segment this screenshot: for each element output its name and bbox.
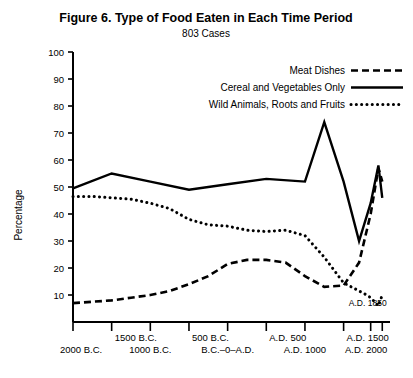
y-tick-label: 80 [53, 101, 64, 112]
y-axis-title: Percentage [13, 189, 24, 241]
food-type-line-chart: Figure 6. Type of Food Eaten in Each Tim… [0, 0, 413, 378]
x-tick-label-upper: 1500 B.C. [115, 332, 157, 343]
series-line-1 [73, 122, 382, 241]
chart-subtitle: 803 Cases [182, 28, 230, 39]
annotation-layer: A.D. 1850 [349, 298, 387, 308]
x-tick-label-lower: A.D. 1000 [284, 344, 326, 355]
legend-label-0: Meat Dishes [289, 65, 345, 76]
x-tick-label-lower: B.C.–0–A.D. [201, 344, 254, 355]
x-tick-label-lower: A.D. 2000 [345, 344, 387, 355]
annotation-0: A.D. 1850 [349, 298, 387, 308]
y-tick-label: 10 [53, 290, 64, 301]
y-tick-label: 90 [53, 74, 64, 85]
x-tick-label-upper: 500 B.C. [192, 332, 229, 343]
chart-legend: Meat DishesCereal and Vegetables OnlyWil… [209, 65, 403, 110]
y-tick-label: 100 [48, 47, 64, 58]
x-tick-label-lower: 2000 B.C. [60, 344, 102, 355]
x-tick-label-upper: A.D. 500 [269, 332, 306, 343]
y-tick-label: 40 [53, 209, 64, 220]
y-tick-label: 30 [53, 236, 64, 247]
series-layer [73, 122, 382, 306]
x-tick-label-upper: A.D. 1500 [347, 332, 389, 343]
x-axis: 2000 B.C.1500 B.C.1000 B.C.500 B.C.B.C.–… [60, 322, 390, 355]
series-line-2 [73, 196, 382, 305]
y-axis: 102030405060708090100 [48, 47, 73, 323]
x-tick-label-lower: 1000 B.C. [129, 344, 171, 355]
y-tick-label: 20 [53, 263, 64, 274]
y-tick-label: 70 [53, 128, 64, 139]
y-tick-label: 60 [53, 155, 64, 166]
figure-container: Figure 6. Type of Food Eaten in Each Tim… [0, 0, 413, 378]
series-line-0 [73, 168, 382, 303]
y-tick-label: 50 [53, 182, 64, 193]
legend-label-2: Wild Animals, Roots and Fruits [209, 99, 345, 110]
legend-label-1: Cereal and Vegetables Only [220, 82, 345, 93]
chart-title: Figure 6. Type of Food Eaten in Each Tim… [59, 11, 352, 25]
